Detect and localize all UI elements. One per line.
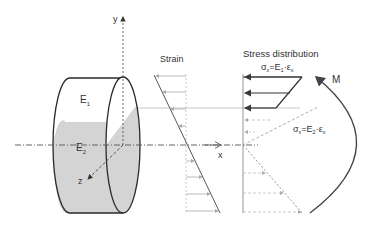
moment-label: M (332, 74, 340, 85)
stress-diagram (243, 74, 318, 213)
e1-label: E1 (80, 94, 91, 107)
moment-arrow (310, 77, 357, 213)
stress-title: Stress distribution (243, 48, 319, 59)
y-axis-label: y (113, 14, 118, 24)
x-axis-label: x (218, 150, 223, 160)
z-axis-label: z (78, 176, 83, 186)
formula-e2: σx=E2·εx (293, 124, 326, 135)
strain-diagram (154, 74, 220, 213)
cylinder-section (53, 77, 142, 220)
strain-title: Strain (160, 54, 184, 64)
strain-line (154, 75, 220, 213)
formula-e1: σx=E1·εx (261, 62, 294, 73)
composite-beam-diagram: y x z E1 E2 Strain Stress distri (0, 0, 375, 225)
